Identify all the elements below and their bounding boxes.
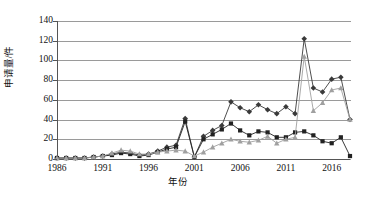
data-point-marker (238, 128, 242, 132)
series-line (57, 56, 350, 158)
data-point-marker (311, 85, 317, 91)
series-diamond (54, 36, 353, 161)
data-point-marker (256, 129, 260, 133)
data-point-marker (201, 137, 205, 141)
chart-container: 020406080100120140 198619911996200120062… (0, 0, 371, 201)
data-point-marker (292, 135, 297, 140)
y-tick-mark (53, 159, 57, 160)
data-point-marker (301, 36, 307, 42)
y-tick-mark (53, 41, 57, 42)
data-point-marker (211, 132, 215, 136)
data-point-marker (329, 76, 335, 82)
data-point-marker (320, 139, 324, 143)
data-point-marker (348, 154, 352, 158)
y-tick-mark (53, 100, 57, 101)
data-point-marker (274, 140, 279, 145)
data-point-marker (302, 129, 306, 133)
y-tick-mark (53, 60, 57, 61)
data-point-marker (228, 136, 233, 141)
data-point-marker (311, 133, 315, 137)
data-point-marker (118, 147, 123, 152)
data-point-marker (275, 135, 279, 139)
data-point-marker (229, 121, 233, 125)
y-tick-mark (53, 80, 57, 81)
data-point-marker (228, 99, 234, 105)
data-point-marker (338, 74, 344, 80)
data-point-marker (220, 127, 224, 131)
data-point-marker (339, 135, 343, 139)
y-tick-mark (53, 21, 57, 22)
data-point-marker (247, 133, 251, 137)
data-point-marker (330, 141, 334, 145)
data-point-marker (219, 140, 224, 145)
y-tick-mark (53, 120, 57, 121)
series-triangle (54, 54, 352, 161)
data-point-marker (237, 105, 243, 111)
data-point-marker (201, 149, 206, 154)
data-point-marker (256, 137, 261, 142)
data-point-marker (320, 89, 326, 95)
data-point-marker (210, 144, 215, 149)
data-point-marker (183, 119, 187, 123)
data-point-marker (265, 107, 271, 113)
y-tick-mark (53, 139, 57, 140)
